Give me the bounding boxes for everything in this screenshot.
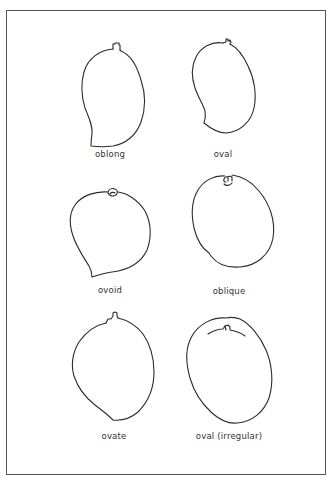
ovoid-shape-icon (70, 189, 150, 277)
label-ovoid: ovoid (98, 285, 122, 295)
label-oblong: oblong (95, 149, 125, 159)
oblique-shape-icon (192, 175, 273, 267)
label-oblique: oblique (213, 286, 246, 296)
shapes-canvas (0, 0, 335, 486)
label-oval: oval (214, 149, 233, 159)
oblong-shape-icon (82, 43, 145, 147)
label-ovate: ovate (101, 431, 126, 441)
oval-irregular-shape-icon (187, 317, 272, 423)
ovate-shape-icon (72, 312, 154, 420)
oval-shape-icon (193, 39, 256, 133)
label-oval-irregular: oval (irregular) (196, 431, 262, 441)
